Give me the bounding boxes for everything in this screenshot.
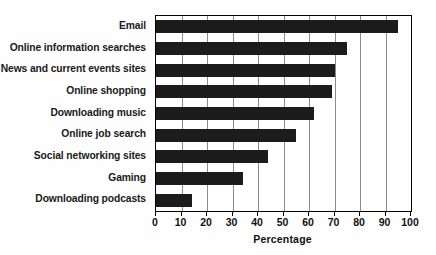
bar [156, 172, 243, 185]
bar [156, 20, 398, 33]
gridline [360, 16, 361, 211]
plot-area [155, 15, 412, 212]
x-axis-title: Percentage [155, 233, 410, 245]
bar [156, 42, 347, 55]
bar [156, 150, 268, 163]
category-label: Online shopping [0, 86, 146, 96]
bar [156, 64, 335, 77]
category-label: Online information searches [0, 43, 146, 53]
category-label: Gaming [0, 173, 146, 183]
bar [156, 194, 192, 207]
gridline [386, 16, 387, 211]
category-label: Online job search [0, 129, 146, 139]
x-axis-tick-label: 100 [395, 217, 425, 228]
category-label: Email [0, 21, 146, 31]
bar [156, 129, 296, 142]
category-label: Social networking sites [0, 151, 146, 161]
category-label: Downloading podcasts [0, 194, 146, 204]
category-axis-labels: EmailOnline information searchesNews and… [0, 15, 150, 210]
bar [156, 85, 332, 98]
category-label: News and current events sites [0, 64, 146, 74]
bar [156, 107, 314, 120]
category-label: Downloading music [0, 108, 146, 118]
bar-chart: EmailOnline information searchesNews and… [0, 0, 436, 255]
